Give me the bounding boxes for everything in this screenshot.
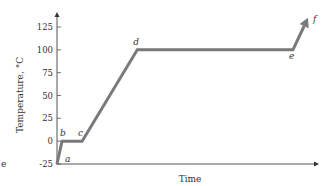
y-axis-title: Temperature, °C	[15, 57, 25, 133]
y-tick-label: -25	[39, 159, 53, 169]
x-axis-arrow-icon	[314, 162, 319, 167]
point-label-f: f	[312, 14, 318, 24]
y-axis-arrow-icon	[55, 12, 60, 17]
point-labels: abcdef	[60, 14, 318, 164]
stray-text: e	[1, 159, 6, 169]
y-tick-label: 50	[42, 91, 53, 101]
heating-curve-chart: -250255075100125 abcdef Temperature, °C …	[0, 0, 336, 186]
y-tick-label: 25	[42, 113, 53, 123]
point-label-c: c	[78, 128, 83, 138]
y-tick-label: 125	[37, 22, 53, 32]
point-label-d: d	[133, 37, 139, 47]
y-tick-label: 0	[48, 136, 53, 146]
point-label-b: b	[60, 128, 66, 138]
x-axis-title: Time	[179, 174, 202, 184]
heating-curve-line	[57, 26, 304, 164]
y-tick-label: 100	[37, 45, 53, 55]
y-tick-label: 75	[42, 68, 53, 78]
point-label-a: a	[65, 154, 70, 164]
point-label-e: e	[289, 51, 294, 61]
